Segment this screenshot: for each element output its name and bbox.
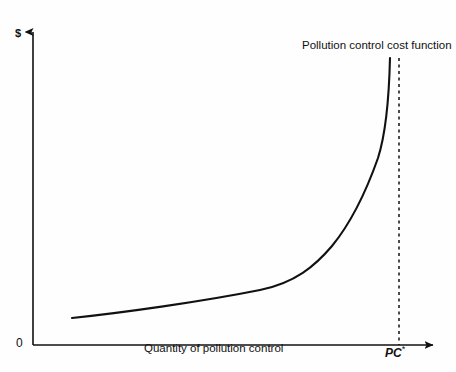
pc-star-text: PC bbox=[385, 346, 402, 360]
x-axis-title: Quantity of pollution control bbox=[144, 343, 283, 355]
pc-star-label: PC* bbox=[385, 345, 405, 359]
pc-star-asterisk: * bbox=[402, 344, 406, 354]
y-axis-label: $ bbox=[15, 28, 21, 39]
origin-label: 0 bbox=[16, 337, 23, 349]
chart-canvas bbox=[0, 0, 456, 372]
pollution-control-cost-figure: $ 0 Quantity of pollution control Pollut… bbox=[0, 0, 456, 372]
cost-curve bbox=[72, 58, 390, 318]
cost-curve-label: Pollution control cost function bbox=[302, 40, 452, 52]
